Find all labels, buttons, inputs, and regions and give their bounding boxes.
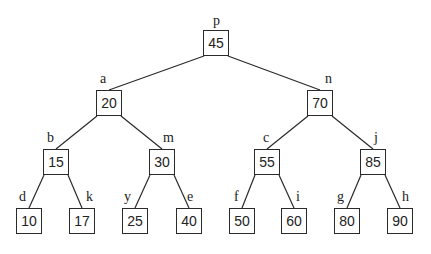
node-label-g: g (337, 190, 344, 204)
node-y: 25 (122, 208, 148, 234)
node-value: 55 (259, 154, 275, 170)
node-label-e: e (187, 190, 193, 204)
node-value: 70 (312, 95, 328, 111)
node-label-i: i (296, 190, 300, 204)
edge-a-b (56, 116, 97, 149)
node-value: 20 (101, 95, 117, 111)
node-e: 40 (176, 208, 202, 234)
node-label-j: j (374, 131, 378, 145)
node-i: 60 (281, 208, 307, 234)
edge-j-h (385, 175, 400, 208)
node-label-d: d (19, 190, 26, 204)
node-label-b: b (47, 131, 54, 145)
edge-j-g (347, 175, 361, 208)
node-value: 50 (234, 213, 250, 229)
edge-n-c (267, 116, 308, 149)
node-n: 70 (307, 90, 333, 116)
node-value: 80 (339, 213, 355, 229)
node-value: 10 (21, 213, 37, 229)
node-k: 17 (69, 208, 95, 234)
node-label-h: h (402, 190, 409, 204)
node-h: 90 (387, 208, 413, 234)
node-value: 90 (392, 213, 408, 229)
edge-b-d (29, 175, 44, 208)
node-value: 85 (365, 154, 381, 170)
node-value: 25 (127, 213, 143, 229)
node-label-c: c (263, 131, 269, 145)
node-label-n: n (325, 72, 332, 86)
node-j: 85 (360, 149, 386, 175)
node-value: 45 (208, 35, 224, 51)
node-label-m: m (163, 131, 174, 145)
node-f: 50 (229, 208, 255, 234)
node-c: 55 (254, 149, 280, 175)
node-p: 45 (203, 30, 229, 56)
node-label-p: p (213, 14, 220, 28)
node-b: 15 (43, 149, 69, 175)
node-value: 40 (181, 213, 197, 229)
edge-p-n (228, 56, 320, 90)
node-label-k: k (86, 190, 93, 204)
edge-m-y (135, 175, 150, 208)
node-label-f: f (234, 190, 239, 204)
node-d: 10 (16, 208, 42, 234)
node-m: 30 (149, 149, 175, 175)
edge-c-f (242, 175, 255, 208)
node-value: 15 (48, 154, 64, 170)
tree-diagram: 45p20a70n15b30m55c85j10d17k25y40e50f60i8… (0, 0, 431, 254)
edge-n-j (332, 116, 373, 149)
edge-a-m (121, 116, 162, 149)
node-value: 17 (74, 213, 90, 229)
node-value: 30 (154, 154, 170, 170)
edge-p-a (109, 56, 204, 90)
node-label-y: y (124, 190, 131, 204)
edge-c-i (279, 175, 294, 208)
node-value: 60 (286, 213, 302, 229)
node-label-a: a (100, 72, 106, 86)
node-a: 20 (96, 90, 122, 116)
node-g: 80 (334, 208, 360, 234)
edge-b-k (68, 175, 82, 208)
